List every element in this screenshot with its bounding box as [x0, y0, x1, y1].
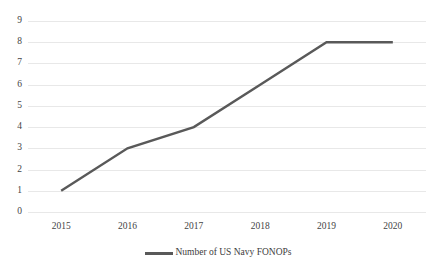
x-axis-tick-label: 2019: [317, 222, 336, 232]
x-axis-tick-label: 2020: [383, 222, 402, 232]
y-axis-tick-label: 7: [17, 59, 22, 69]
y-axis-tick-label: 6: [17, 80, 22, 90]
series-layer: [28, 21, 426, 212]
series-line: [61, 42, 393, 191]
y-axis: 0123456789: [0, 21, 26, 212]
x-axis-tick-label: 2015: [52, 222, 71, 232]
y-axis-tick-label: 8: [17, 37, 22, 47]
legend-item[interactable]: Number of US Navy FONOPs: [145, 248, 291, 258]
gridline: [28, 212, 426, 213]
chart-legend: Number of US Navy FONOPs: [0, 244, 437, 262]
y-axis-tick-label: 2: [17, 165, 22, 175]
y-axis-tick-label: 3: [17, 144, 22, 154]
x-axis-tick-label: 2017: [184, 222, 203, 232]
x-axis-tick-label: 2018: [251, 222, 270, 232]
y-axis-tick-label: 1: [17, 186, 22, 196]
legend-line-swatch: [145, 252, 173, 255]
y-axis-tick-label: 5: [17, 101, 22, 111]
y-axis-tick-label: 9: [17, 16, 22, 26]
line-chart: 0123456789 201520162017201820192020 Numb…: [0, 0, 437, 267]
x-axis: 201520162017201820192020: [28, 222, 426, 236]
plot-area: [28, 21, 426, 212]
y-axis-tick-label: 4: [17, 122, 22, 132]
y-axis-tick-label: 0: [17, 207, 22, 217]
legend-item-label: Number of US Navy FONOPs: [175, 248, 291, 258]
x-axis-tick-label: 2016: [118, 222, 137, 232]
